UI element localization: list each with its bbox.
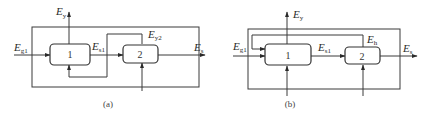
diagram-b: 1 2 Ey Eg1 Es1 Eh Es (b) xyxy=(232,8,417,109)
energy-flow-diagrams: 1 2 Ey Eg1 Es1 Ey2 Es (a) 1 2 Ey Eg1 Es1… xyxy=(0,0,431,120)
exhaust-label-a: Ey xyxy=(55,5,67,20)
block-2-label-b: 2 xyxy=(360,51,365,62)
diagram-a: 1 2 Ey Eg1 Es1 Ey2 Es (a) xyxy=(13,5,205,109)
block-1-label-b: 1 xyxy=(286,50,291,61)
output-label-b: Es xyxy=(402,42,413,56)
intermediate-label-a: Es1 xyxy=(91,40,105,54)
caption-a: (a) xyxy=(103,99,113,109)
recycle-label-b: Eh xyxy=(366,33,378,47)
caption-b: (b) xyxy=(285,99,296,109)
input-label-b: Eg1 xyxy=(232,40,247,54)
recycle-label-a: Ey2 xyxy=(147,28,162,42)
block-2-label-a: 2 xyxy=(138,49,143,60)
output-label-a: Es xyxy=(193,41,204,55)
intermediate-label-b: Es1 xyxy=(317,41,331,55)
block-1-label-a: 1 xyxy=(68,49,73,60)
input-label-a: Eg1 xyxy=(13,41,28,55)
exhaust-label-b: Ey xyxy=(292,8,304,22)
